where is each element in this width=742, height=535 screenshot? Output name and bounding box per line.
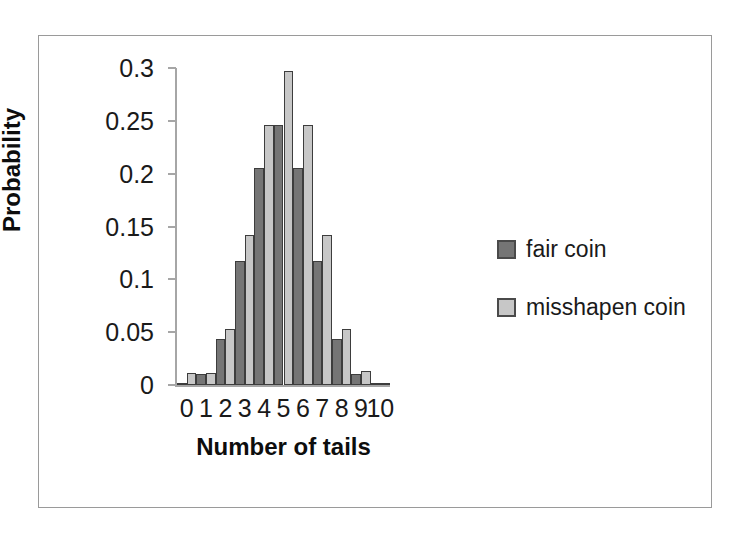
- x-axis-line: [175, 385, 390, 387]
- legend-swatch-icon: [497, 298, 516, 317]
- x-axis-ticks: 012345678910: [177, 394, 390, 426]
- y-axis-tick-label: 0.2: [119, 159, 154, 188]
- y-axis-tick-label: 0.15: [105, 212, 154, 241]
- y-axis-tick-mark: 0.3: [168, 67, 176, 69]
- y-axis-tick-label: 0.05: [105, 318, 154, 347]
- y-axis-tick-mark: 0.05: [168, 331, 176, 333]
- x-axis-tick-label: 10: [366, 394, 394, 423]
- y-axis-tick-mark: 0.15: [168, 226, 176, 228]
- bar-misshapen-coin-0: [187, 373, 197, 385]
- bar-fair-coin-4: [254, 168, 264, 385]
- bar-misshapen-coin-10: [380, 383, 390, 385]
- x-axis-tick-label: 0: [180, 394, 194, 423]
- bar-fair-coin-9: [351, 374, 361, 385]
- y-axis-title: Probability: [0, 70, 26, 270]
- plot-area: 0.30.250.20.150.10.050: [177, 68, 390, 385]
- bar-fair-coin-0: [177, 383, 187, 385]
- bar-fair-coin-8: [332, 339, 342, 385]
- bar-misshapen-coin-7: [322, 235, 332, 385]
- y-axis-tick-mark: 0.25: [168, 120, 176, 122]
- bar-misshapen-coin-3: [245, 235, 255, 385]
- legend-item[interactable]: misshapen coin: [497, 289, 707, 325]
- bar-fair-coin-1: [196, 374, 206, 385]
- bar-fair-coin-6: [293, 168, 303, 385]
- bar-fair-coin-2: [216, 339, 226, 385]
- x-axis-title: Number of tails: [177, 433, 390, 461]
- y-axis-tick-mark: 0.1: [168, 278, 176, 280]
- bar-misshapen-coin-6: [303, 125, 313, 385]
- y-axis-tick-mark: 0.2: [168, 173, 176, 175]
- y-axis-tick-label: 0.3: [119, 54, 154, 83]
- x-axis-tick-label: 8: [335, 394, 349, 423]
- x-axis-tick-label: 3: [238, 394, 252, 423]
- bar-misshapen-coin-5: [284, 71, 294, 385]
- x-axis-tick-label: 6: [296, 394, 310, 423]
- legend-item[interactable]: fair coin: [497, 231, 707, 267]
- bar-misshapen-coin-9: [361, 371, 371, 385]
- x-axis-tick-label: 4: [257, 394, 271, 423]
- bar-group: [177, 68, 390, 385]
- chart-legend: fair coinmisshapen coin: [497, 231, 707, 347]
- x-axis-tick-label: 7: [315, 394, 329, 423]
- y-axis-tick-label: 0: [140, 371, 154, 400]
- y-axis-tick-label: 0.1: [119, 265, 154, 294]
- bar-fair-coin-3: [235, 261, 245, 385]
- legend-label: fair coin: [526, 236, 607, 263]
- x-axis-tick-label: 1: [199, 394, 213, 423]
- bar-misshapen-coin-8: [342, 329, 352, 385]
- y-axis-tick-label: 0.25: [105, 106, 154, 135]
- bar-fair-coin-7: [313, 261, 323, 385]
- figure-root: Probability 0.30.250.20.150.10.050 01234…: [0, 0, 742, 535]
- bar-misshapen-coin-4: [264, 125, 274, 385]
- legend-label: misshapen coin: [526, 294, 686, 321]
- bar-fair-coin-5: [274, 125, 284, 385]
- bar-misshapen-coin-2: [225, 329, 235, 385]
- bar-fair-coin-10: [371, 383, 381, 385]
- x-axis-tick-label: 5: [277, 394, 291, 423]
- y-axis-tick-mark: 0: [168, 384, 176, 386]
- x-axis-tick-label: 2: [218, 394, 232, 423]
- legend-swatch-icon: [497, 240, 516, 259]
- bar-misshapen-coin-1: [206, 373, 216, 385]
